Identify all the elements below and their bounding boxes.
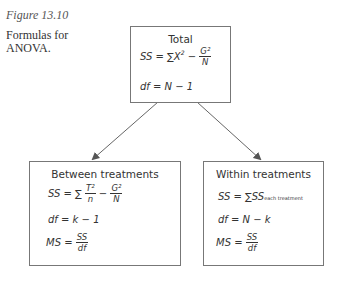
total-ss-formula: SS = ∑X2 − G²N <box>140 46 211 67</box>
total-df-formula: df = N − 1 <box>140 81 193 92</box>
total-title: Total <box>131 33 230 45</box>
within-box: Within treatments SS = ∑SSeach treatment… <box>203 161 324 266</box>
between-title: Between treatments <box>30 168 180 180</box>
between-df-formula: df = k − 1 <box>48 214 100 225</box>
between-box: Between treatments SS = ∑ T²n − G²N df =… <box>29 161 181 266</box>
within-ms-formula: MS = SSdf <box>216 232 258 253</box>
within-df-formula: df = N − k <box>218 214 271 225</box>
within-ss-formula: SS = ∑SSeach treatment <box>218 191 303 202</box>
total-box: Total SS = ∑X2 − G²N df = N − 1 <box>130 26 231 103</box>
between-ms-formula: MS = SSdf <box>46 232 88 253</box>
within-title: Within treatments <box>204 168 323 180</box>
between-ss-formula: SS = ∑ T²n − G²N <box>48 183 122 204</box>
